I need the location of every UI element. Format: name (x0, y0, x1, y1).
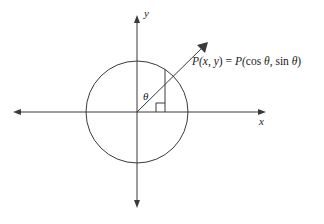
point-label-equals: = (223, 55, 235, 67)
point-label-cos: cos (246, 55, 264, 67)
y-axis-label: y (144, 8, 149, 19)
unit-circle-diagram: y x θ P(x, y) = P(cos θ, sin θ) (0, 0, 324, 224)
point-label-close2: ) (297, 55, 301, 67)
point-p-label: P(x, y) = P(cos θ, sin θ) (192, 56, 301, 68)
angle-theta-label: θ (143, 91, 148, 102)
point-label-p2: P( (235, 55, 246, 67)
diagram-canvas (0, 0, 324, 224)
right-angle-marker-icon (156, 103, 165, 112)
point-label-p1: P( (192, 55, 203, 67)
x-axis-arrow-left-icon (13, 109, 21, 115)
y-axis-arrow-down-icon (134, 200, 140, 208)
point-label-sin: sin (275, 55, 291, 67)
x-axis-label: x (259, 116, 264, 127)
y-axis-arrow-up-icon (134, 15, 140, 23)
